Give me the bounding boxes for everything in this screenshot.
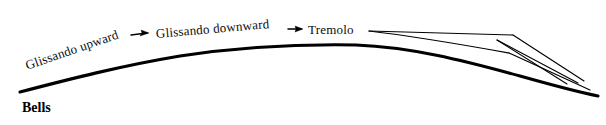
instrument-label-bells: Bells [22,100,51,116]
tremolo-tail-line-b [513,35,584,81]
arrow-right-icon-1 [131,30,149,36]
arrow-right-icon-2 [288,26,303,32]
tremolo-tail-line-a [497,40,578,83]
tremolo-wedge-upper-line [369,31,513,35]
bells-glissando-figure: Glissando upward Glissando downward Trem… [0,0,606,125]
tremolo-tail-line-d [497,40,567,84]
annotation-tremolo: Tremolo [308,22,354,38]
bells-glissando-curve [20,45,598,96]
notation-canvas [0,0,606,125]
